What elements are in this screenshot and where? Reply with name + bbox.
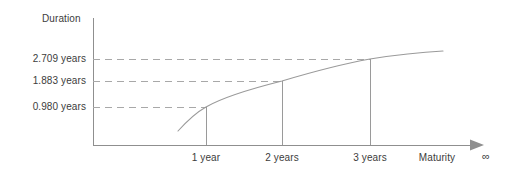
x-tick-label-1-year: 1 year [176, 152, 236, 164]
x-tick-label-3-years: 3 years [340, 152, 400, 164]
x-axis-title: Maturity [406, 152, 468, 164]
x-axis-arrowhead-icon [470, 140, 484, 151]
y-axis-title: Duration [42, 13, 81, 25]
infinity-symbol-icon: ∞ [482, 150, 504, 162]
duration-curve [178, 51, 443, 131]
duration-vs-maturity-chart: Duration 2.709 years 1.883 years 0.980 y… [0, 0, 516, 178]
x-tick-label-2-years: 2 years [252, 152, 312, 164]
y-tick-label-0980: 0.980 years [0, 101, 86, 113]
y-tick-label-1883: 1.883 years [0, 75, 86, 87]
y-tick-label-2709: 2.709 years [0, 53, 86, 65]
